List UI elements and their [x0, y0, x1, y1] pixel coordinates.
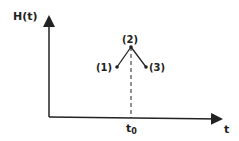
- line-2-to-3: [131, 47, 146, 67]
- point-1-label: (1): [96, 62, 112, 73]
- line-1-to-2: [117, 47, 131, 67]
- point-2-dot: [129, 45, 133, 49]
- x-axis: [49, 117, 220, 119]
- point-2-label: (2): [122, 34, 138, 45]
- x-axis-label: t: [224, 123, 229, 136]
- point-1-dot: [115, 65, 119, 69]
- point-3-label: (3): [149, 62, 165, 73]
- y-axis-label: H(t): [13, 10, 38, 23]
- t0-tick-label: t0: [126, 122, 137, 136]
- diagram-canvas: H(t) t (1) (2) (3) t0: [0, 0, 239, 141]
- point-3-dot: [144, 65, 148, 69]
